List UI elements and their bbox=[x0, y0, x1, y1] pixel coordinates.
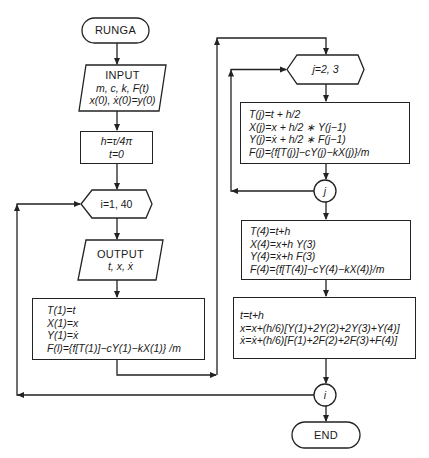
connector-j: j bbox=[314, 180, 336, 202]
step4-line-2: X(4)=x+h Y(3) bbox=[250, 238, 316, 251]
step1-line-2: X(1)=x bbox=[47, 317, 78, 330]
init-line-2: t=0 bbox=[109, 148, 124, 161]
input-block: INPUT m, c, k, F(t) x(0), ẋ(0)=y(0) bbox=[79, 65, 166, 111]
end-terminal: END bbox=[292, 422, 360, 448]
connector-i: i bbox=[314, 384, 336, 406]
loop-j-block: j=2, 3 bbox=[287, 55, 364, 84]
stepj-line-1: T(j)=t + h/2 bbox=[249, 108, 300, 121]
connector-i-label: i bbox=[324, 389, 326, 402]
loop-i-label: i=1, 40 bbox=[101, 198, 133, 211]
step1-line-1: T(1)=t bbox=[47, 304, 75, 317]
step4-line-4: F(4)={f[T(4)]−cY(4)−kX(4)}/m bbox=[250, 263, 385, 276]
start-terminal: RUNGA bbox=[82, 18, 149, 43]
output-block: OUTPUT t, x, ẋ bbox=[78, 240, 163, 280]
update-line-3: ẋ=ẋ+(h/6)[F(1)+2F(2)+2F(3)+F(4)] bbox=[240, 334, 397, 347]
stepj-block: T(j)=t + h/2 X(j)=x + h/2 ∗ Y(j−1) Y(j)=… bbox=[240, 102, 410, 164]
step4-line-1: T(4)=t+h bbox=[250, 225, 290, 238]
stepj-line-4: F(j)={f[T(j)]−cY(j)−kX(j)}/m bbox=[249, 146, 369, 159]
stepj-line-3: Y(j)=ẋ + h/2 ∗ F(j−1) bbox=[249, 133, 346, 146]
end-label: END bbox=[314, 429, 338, 442]
step4-line-3: Y(4)=ẋ+h F(3) bbox=[250, 250, 315, 263]
step1-line-4: F(l)={f[T(1)]−cY(1)−kX(1)} /m bbox=[47, 342, 181, 355]
start-label: RUNGA bbox=[95, 24, 136, 37]
loop-j-label: j=2, 3 bbox=[313, 63, 339, 76]
input-line-1: m, c, k, F(t) bbox=[96, 82, 149, 95]
stepj-line-2: X(j)=x + h/2 ∗ Y(j−1) bbox=[249, 121, 346, 134]
update-line-1: t=t+h bbox=[240, 309, 264, 322]
input-line-2: x(0), ẋ(0)=y(0) bbox=[89, 94, 155, 107]
update-block: t=t+h x=x+(h/6)[Y(1)+2Y(2)+2Y(3)+Y(4)] ẋ… bbox=[233, 297, 416, 359]
init-line-1: h=τ/4π bbox=[101, 135, 133, 148]
step1-block: T(1)=t X(1)=x Y(1)=ẋ F(l)={f[T(1)]−cY(1)… bbox=[32, 298, 205, 360]
output-title: OUTPUT bbox=[97, 248, 144, 261]
update-line-2: x=x+(h/6)[Y(1)+2Y(2)+2Y(3)+Y(4)] bbox=[240, 322, 400, 335]
step1-line-3: Y(1)=ẋ bbox=[47, 329, 78, 342]
output-line-1: t, x, ẋ bbox=[108, 260, 133, 273]
connector-j-label: j bbox=[324, 185, 326, 198]
init-block: h=τ/4π t=0 bbox=[80, 131, 153, 164]
step4-block: T(4)=t+h X(4)=x+h Y(3) Y(4)=ẋ+h F(3) F(4… bbox=[241, 220, 411, 280]
input-title: INPUT bbox=[105, 69, 140, 82]
loop-i-block: i=1, 40 bbox=[81, 190, 152, 218]
